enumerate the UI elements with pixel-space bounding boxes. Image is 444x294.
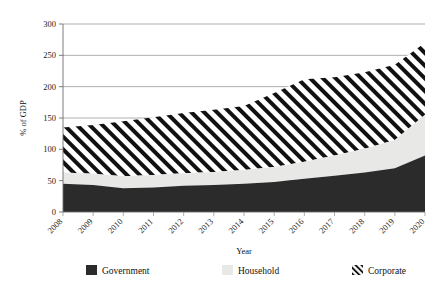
y-tick-label: 100 bbox=[43, 144, 56, 154]
stacked-area-chart: 050100150200250300 200820092010201120122… bbox=[0, 0, 444, 294]
legend-label-government: Government bbox=[102, 266, 150, 276]
y-tick-label: 300 bbox=[43, 19, 56, 29]
y-tick-label: 50 bbox=[48, 176, 57, 186]
legend-label-corporate: Corporate bbox=[368, 266, 406, 276]
chart-figure: 050100150200250300 200820092010201120122… bbox=[0, 0, 444, 294]
y-axis-title: % of GDP bbox=[18, 100, 28, 136]
y-tick-label: 0 bbox=[52, 207, 56, 217]
y-tick-label: 150 bbox=[43, 113, 56, 123]
x-axis-title: Year bbox=[236, 246, 252, 256]
legend-label-household: Household bbox=[238, 266, 279, 276]
y-tick-label: 200 bbox=[43, 82, 56, 92]
legend-swatch-government bbox=[86, 265, 97, 275]
legend-swatch-household bbox=[222, 265, 233, 275]
chart-legend: GovernmentHouseholdCorporate bbox=[86, 265, 406, 276]
legend-swatch-corporate bbox=[352, 265, 363, 275]
y-tick-label: 250 bbox=[43, 50, 56, 60]
